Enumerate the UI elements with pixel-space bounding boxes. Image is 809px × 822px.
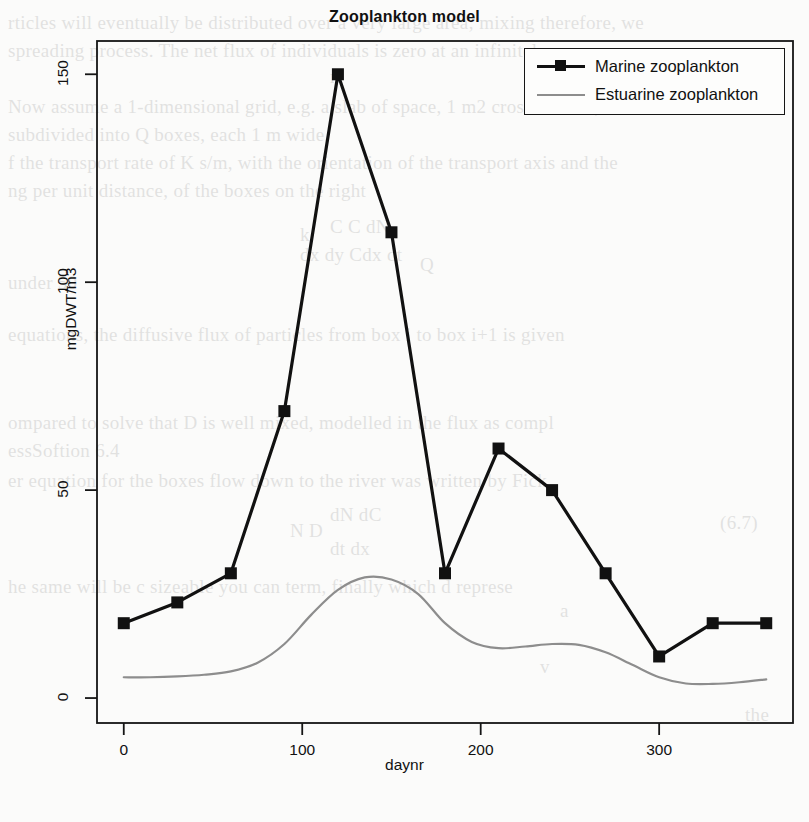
chart-canvas	[0, 0, 809, 822]
y-tick-label: 50	[54, 466, 72, 512]
x-tick-label: 200	[453, 741, 509, 759]
x-tick-label: 300	[631, 741, 687, 759]
plot-frame	[97, 41, 793, 723]
y-axis-label: mgDWT/m3	[62, 229, 80, 389]
data-point-marker	[546, 484, 558, 496]
data-point-marker	[385, 226, 397, 238]
figure-page: rticles will eventually be distributed o…	[0, 0, 809, 822]
axes-group	[85, 41, 793, 735]
data-point-marker	[332, 68, 344, 80]
data-point-marker	[600, 567, 612, 579]
legend-entry-estuarine: Estuarine zooplankton	[535, 80, 758, 108]
legend: Marine zooplankton Estuarine zooplankton	[524, 48, 785, 115]
data-point-marker	[118, 617, 130, 629]
data-point-marker	[760, 617, 772, 629]
legend-label-estuarine: Estuarine zooplankton	[595, 85, 758, 104]
y-tick-label: 100	[54, 258, 72, 304]
legend-label-marine: Marine zooplankton	[595, 57, 739, 76]
legend-key-marine-icon	[535, 56, 587, 76]
series-line-estuarine	[124, 577, 766, 685]
x-tick-label: 100	[274, 741, 330, 759]
data-series-group	[118, 68, 772, 684]
data-point-marker	[707, 617, 719, 629]
y-tick-label: 150	[54, 50, 72, 96]
data-point-marker	[225, 567, 237, 579]
data-point-marker	[278, 405, 290, 417]
x-tick-label: 0	[96, 741, 152, 759]
data-point-marker	[439, 567, 451, 579]
legend-entry-marine: Marine zooplankton	[535, 52, 739, 80]
data-point-marker	[653, 650, 665, 662]
data-point-marker	[171, 596, 183, 608]
y-tick-label: 0	[54, 674, 72, 720]
data-point-marker	[493, 443, 505, 455]
legend-key-estuarine-icon	[535, 84, 587, 104]
